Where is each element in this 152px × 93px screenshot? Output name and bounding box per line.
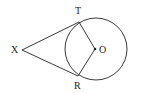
label-x: X — [11, 44, 19, 55]
center-point-o — [94, 48, 97, 51]
radius-segment-ro — [78, 49, 95, 76]
tangent-segment-xr — [22, 50, 78, 76]
tangent-segment-xt — [22, 22, 79, 50]
label-r: R — [74, 80, 81, 91]
label-t: T — [75, 5, 81, 16]
label-o: O — [99, 44, 106, 55]
radius-segment-to — [79, 22, 95, 49]
tangent-diagram: T X O R — [0, 0, 152, 93]
